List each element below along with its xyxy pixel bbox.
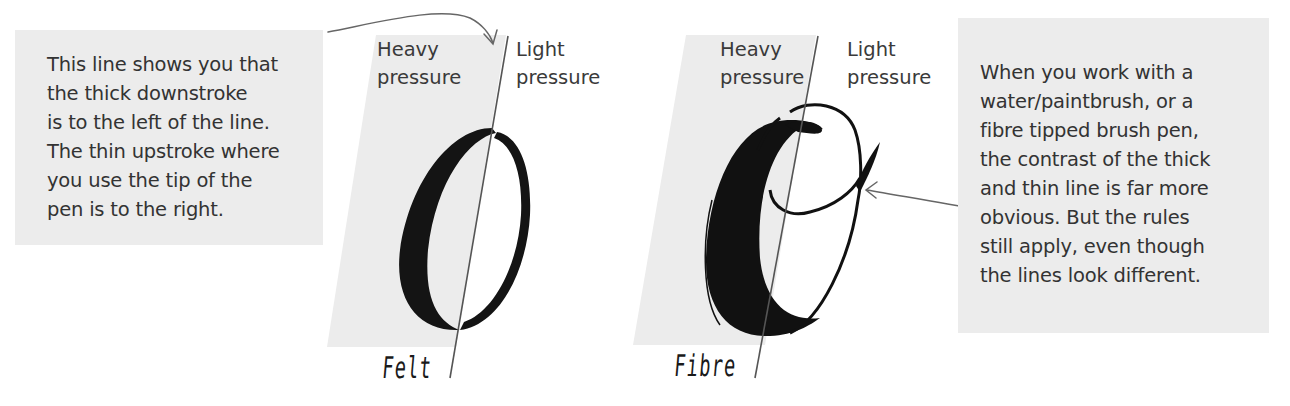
fibre-pen-label: Fibre: [673, 348, 738, 383]
fibre-explanation-text: When you work with a water/paintbrush, o…: [980, 58, 1269, 290]
felt-light-pressure-label: Light pressure: [516, 36, 600, 92]
felt-explanation-note: This line shows you that the thick downs…: [15, 30, 323, 245]
felt-pen-label: Felt: [381, 350, 434, 385]
fibre-explanation-note: When you work with a water/paintbrush, o…: [958, 18, 1269, 333]
fibre-heavy-pressure-label: Heavy pressure: [720, 36, 804, 92]
felt-explanation-text: This line shows you that the thick downs…: [47, 50, 323, 224]
felt-heavy-pressure-label: Heavy pressure: [377, 36, 461, 92]
fibre-light-pressure-label: Light pressure: [847, 36, 931, 92]
